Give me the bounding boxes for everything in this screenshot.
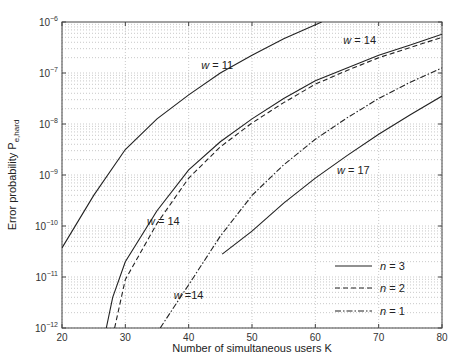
curve-label: w = 14: [343, 34, 376, 46]
y-tick-label: 10−8: [39, 117, 58, 130]
x-axis-label: Number of simultaneous users K: [172, 342, 332, 354]
curve-label: w =14: [174, 289, 204, 301]
x-tick-label: 20: [56, 332, 68, 343]
curve-label: w = 14: [147, 215, 180, 227]
legend: n = 3n = 2n = 1: [335, 260, 405, 317]
y-tick-label: 10−11: [36, 270, 59, 283]
x-tick-label: 80: [436, 332, 448, 343]
y-tick-label: 10−10: [35, 219, 58, 232]
y-axis-label: Error probability Pe,hard: [6, 120, 21, 231]
x-tick-label: 70: [373, 332, 385, 343]
error-probability-chart: 2030405060708010−1210−1110−1010−910−810−…: [0, 0, 470, 364]
y-tick-label: 10−9: [39, 168, 58, 181]
y-tick-label: 10−6: [39, 15, 58, 28]
legend-label: n = 2: [380, 282, 405, 294]
curve-label: w = 17: [337, 164, 370, 176]
legend-label: n = 3: [380, 260, 405, 272]
curve-annotations: w = 11w = 14w = 17w = 14w =14: [147, 34, 376, 301]
y-tick-label: 10−7: [39, 66, 58, 79]
legend-label: n = 1: [380, 305, 405, 317]
y-tick-label: 10−12: [35, 321, 58, 334]
x-tick-label: 30: [120, 332, 132, 343]
curve-label: w = 11: [201, 59, 233, 71]
